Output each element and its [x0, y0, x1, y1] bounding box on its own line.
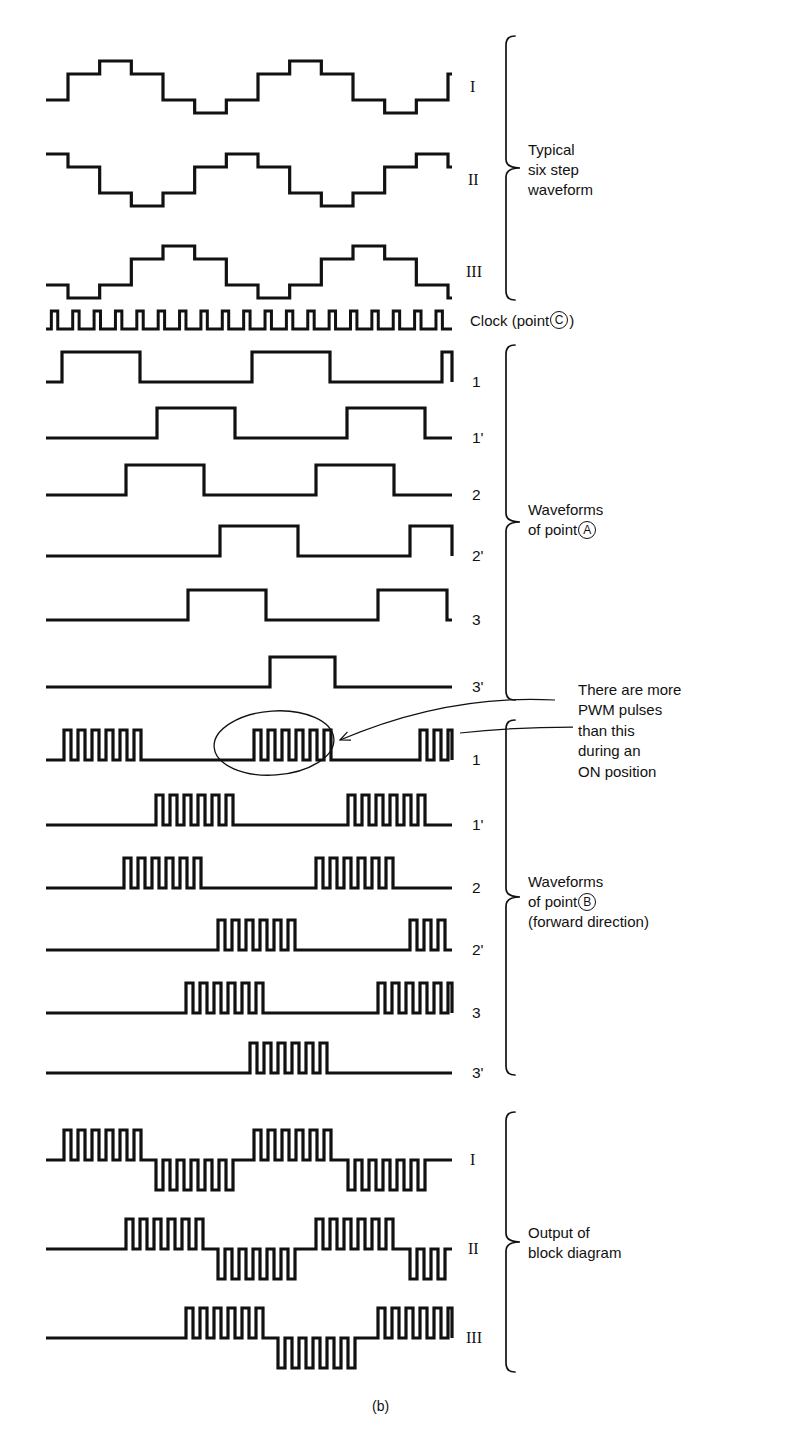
row-label-point-a-2p: 2' [472, 548, 484, 564]
row-label-point-b-3p: 3' [472, 1065, 484, 1081]
brace-layer [506, 36, 520, 1372]
row-label-point-a-3: 3 [472, 612, 481, 628]
waveform-output-III [46, 1308, 452, 1368]
brace-point-b [506, 720, 520, 1075]
row-label-point-a-1: 1 [472, 374, 481, 390]
group-label-line2: of point A [528, 520, 603, 540]
row-label-point-b-2: 2 [472, 880, 481, 896]
circled-point-a: A [578, 521, 596, 539]
figure-canvas: IIIIII11'22'33'11'22'33'IIIIIIClock (poi… [0, 0, 790, 1445]
waveform-point-b-1 [46, 730, 452, 760]
clock-label-prefix: Clock (point [470, 312, 549, 329]
row-label-point-b-3: 3 [472, 1005, 481, 1021]
group-label-point-a: Waveformsof point A [528, 500, 603, 540]
row-label-point-b-2p: 2' [472, 942, 484, 958]
brace-six-step [506, 36, 520, 300]
group-label-line2: of point B [528, 892, 649, 912]
clock-label-suffix: ) [569, 312, 574, 329]
waveform-point-a-3p [46, 657, 452, 687]
row-label-six-step-I: I [470, 79, 475, 95]
waveform-point-a-2 [46, 465, 452, 495]
waveform-point-b-2p [46, 920, 452, 950]
row-label-output-II: II [468, 1241, 479, 1257]
row-label-output-III: III [466, 1330, 482, 1346]
group-label-line2-text: of point [528, 892, 577, 912]
waveform-point-a-1p [46, 408, 452, 438]
annotation-leader-line [460, 727, 573, 733]
row-label-point-a-3p: 3' [472, 679, 484, 695]
waveform-point-b-3 [46, 983, 452, 1013]
group-label-line3: (forward direction) [528, 912, 649, 932]
waveform-output-I [46, 1130, 452, 1190]
row-label-point-b-1: 1 [472, 752, 481, 768]
circled-point-c: C [550, 311, 568, 329]
waveform-six-step-III [46, 246, 452, 298]
waveform-clock [46, 311, 452, 329]
row-label-point-b-1p: 1' [472, 817, 484, 833]
clock-label: Clock (point C) [470, 311, 574, 329]
row-label-six-step-III: III [466, 264, 482, 280]
brace-point-a [506, 345, 520, 700]
annotation-layer [212, 699, 573, 779]
row-label-six-step-II: II [468, 172, 479, 188]
waveform-point-a-3 [46, 590, 452, 620]
brace-output [506, 1112, 520, 1372]
group-label-line1: Waveforms [528, 500, 603, 520]
row-label-output-I: I [470, 1152, 475, 1168]
waveform-six-step-II [46, 154, 452, 206]
group-label-line1: Waveforms [528, 872, 649, 892]
waveform-point-b-1p [46, 795, 452, 825]
waveform-point-a-2p [46, 526, 452, 556]
waveform-point-b-2 [46, 858, 452, 888]
circled-point-b: B [578, 893, 596, 911]
group-label-output: Output of block diagram [528, 1223, 621, 1263]
row-label-point-a-2: 2 [472, 487, 481, 503]
figure-caption: (b) [372, 1398, 389, 1414]
waveform-point-b-3p [46, 1043, 452, 1073]
waveform-point-a-1 [46, 352, 452, 382]
annotation-text: There are more PWM pulses than this duri… [578, 680, 681, 782]
group-label-line2-text: of point [528, 520, 577, 540]
row-label-point-a-1p: 1' [472, 430, 484, 446]
waveform-six-step-I [46, 61, 452, 113]
group-label-point-b: Waveformsof point B(forward direction) [528, 872, 649, 932]
waveform-output-II [46, 1219, 452, 1279]
group-label-six-step: Typical six step waveform [528, 140, 593, 200]
